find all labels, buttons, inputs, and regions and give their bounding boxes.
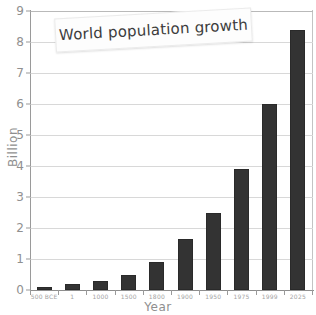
x-tick-label: 1999	[262, 293, 278, 300]
bar	[93, 281, 108, 290]
x-tick-label: 2025	[290, 293, 306, 300]
y-tick-label: 2	[2, 221, 24, 235]
x-tick-mark	[58, 290, 59, 295]
bar	[149, 262, 164, 290]
x-axis-line	[30, 290, 314, 291]
y-tick-label: 1	[2, 252, 24, 266]
x-axis-label: Year	[0, 300, 316, 314]
y-tick-label: 8	[2, 35, 24, 49]
x-tick-label: 1000	[92, 293, 108, 300]
x-tick-label: 1900	[177, 293, 193, 300]
bar	[290, 30, 305, 290]
bar	[65, 284, 80, 290]
x-tick-mark	[312, 290, 313, 295]
y-tick-label: 3	[2, 190, 24, 204]
x-tick-label: 1950	[205, 293, 221, 300]
bar	[178, 239, 193, 290]
x-tick-mark	[199, 290, 200, 295]
bar	[37, 287, 52, 290]
y-tick-label: 9	[2, 4, 24, 18]
bar	[206, 213, 221, 291]
y-axis-label: Billion	[6, 112, 20, 182]
x-tick-mark	[86, 290, 87, 295]
x-tick-mark	[143, 290, 144, 295]
gridline	[30, 73, 313, 74]
bar	[121, 275, 136, 291]
x-tick-label: 500 BCE	[31, 293, 58, 300]
plot-area	[30, 11, 313, 290]
bar	[234, 169, 249, 290]
x-tick-mark	[227, 290, 228, 295]
x-tick-label: 1500	[121, 293, 137, 300]
y-tick-label: 6	[2, 97, 24, 111]
x-tick-mark	[256, 290, 257, 295]
x-tick-label: 1800	[149, 293, 165, 300]
chart-container: 0123456789 Billion 500 BCE11000150018001…	[0, 0, 316, 315]
y-tick-label: 0	[2, 283, 24, 297]
x-tick-label: 1975	[233, 293, 249, 300]
x-tick-mark	[115, 290, 116, 295]
x-tick-mark	[284, 290, 285, 295]
x-tick-label: 1	[70, 293, 74, 300]
y-tick-label: 7	[2, 66, 24, 80]
x-tick-mark	[171, 290, 172, 295]
bar	[262, 104, 277, 290]
